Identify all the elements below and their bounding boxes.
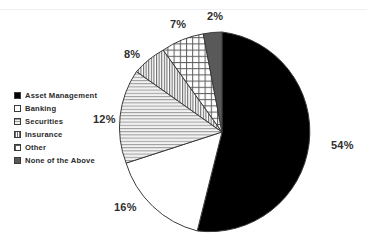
white-swatch-icon (14, 105, 21, 112)
pie-label-insurance: 8% (124, 48, 140, 60)
pie-label-other: 7% (170, 18, 186, 30)
legend-item-none-of-the-above[interactable]: None of the Above (14, 155, 97, 166)
legend-item-banking[interactable]: Banking (14, 103, 97, 114)
horizontal-lines-swatch-icon (14, 118, 21, 125)
pie-label-banking: 16% (114, 201, 137, 213)
legend-item-asset-management[interactable]: Asset Management (14, 90, 97, 101)
vertical-lines-swatch-icon (14, 131, 21, 138)
legend-label-other: Other (25, 143, 46, 152)
pie-chart: 54% 16% 12% 8% 7% 2% Asset Management Ba… (0, 0, 367, 243)
legend-item-other[interactable]: Other (14, 142, 97, 153)
legend-label-insurance: Insurance (25, 130, 63, 139)
legend-item-securities[interactable]: Securities (14, 116, 97, 127)
dark-gray-swatch-icon (14, 157, 21, 164)
legend-item-insurance[interactable]: Insurance (14, 129, 97, 140)
pie-label-asset-management: 54% (331, 139, 354, 151)
chart-legend: Asset Management Banking Securities Insu… (14, 90, 97, 166)
legend-label-banking: Banking (25, 104, 56, 113)
pie-label-none-of-the-above: 2% (207, 10, 223, 22)
legend-label-none-of-the-above: None of the Above (25, 156, 95, 165)
crosshatch-swatch-icon (14, 144, 21, 151)
legend-label-asset-management: Asset Management (25, 91, 97, 100)
legend-label-securities: Securities (25, 117, 63, 126)
solid-black-swatch-icon (14, 92, 21, 99)
